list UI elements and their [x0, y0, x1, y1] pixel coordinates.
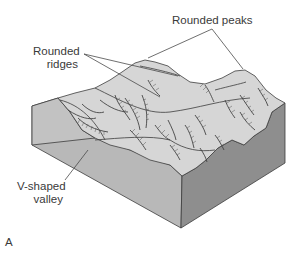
label-rounded-ridges: Rounded ridges — [33, 45, 78, 71]
label-rounded-peaks: Rounded peaks — [172, 14, 253, 27]
panel-letter: A — [5, 236, 13, 249]
landscape-block-diagram — [0, 0, 300, 255]
label-rounded-ridges-line1: Rounded — [33, 45, 78, 58]
label-v-shaped-valley: V-shaped valley — [17, 180, 63, 206]
label-rounded-ridges-line2: ridges — [33, 58, 78, 71]
label-v-shaped-valley-line2: valley — [17, 193, 63, 206]
label-v-shaped-valley-line1: V-shaped — [17, 180, 63, 193]
